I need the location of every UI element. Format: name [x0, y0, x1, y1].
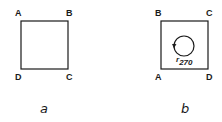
rotation-diagram: A B D C a B C A D r270 b — [0, 0, 222, 122]
rotation-arrow-icon — [173, 36, 195, 56]
caption-b: b — [181, 101, 189, 116]
figure-a: A B D C a — [15, 8, 73, 116]
corner-label-b-top-right: C — [206, 8, 213, 18]
corner-label-b-top-left: B — [155, 8, 162, 18]
caption-a: a — [40, 101, 48, 116]
corner-label-b-bottom-right: D — [206, 72, 213, 82]
corner-label-a-bottom-left: D — [15, 72, 22, 82]
square-a — [21, 21, 68, 69]
corner-label-b-bottom-left: A — [155, 72, 162, 82]
corner-label-a-bottom-right: C — [66, 72, 73, 82]
corner-label-a-top-left: A — [15, 8, 22, 18]
corner-label-a-top-right: B — [66, 8, 73, 18]
figure-b: B C A D r270 b — [155, 8, 213, 116]
rotation-label: r270 — [176, 55, 193, 67]
